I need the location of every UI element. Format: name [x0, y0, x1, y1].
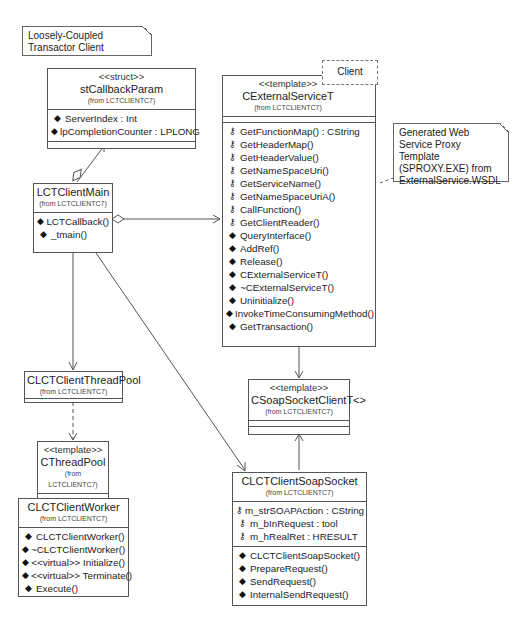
- operation-row: ⚷GetNameSpaceUri(): [226, 164, 372, 177]
- protected-key-icon: ⚷: [226, 138, 238, 151]
- public-diamond-icon: ◆: [51, 125, 58, 138]
- class-stereotype: <<template>>: [40, 444, 106, 456]
- operations-compartment: [48, 141, 195, 146]
- attributes-compartment: ◆ServerIndex : Int ◆lpCompletionCounter …: [48, 109, 195, 141]
- protected-key-icon: ⚷: [226, 216, 238, 229]
- class-name: CLCTClientThreadPool: [27, 374, 120, 386]
- public-diamond-icon: ◆: [236, 588, 248, 601]
- operation-row: ◆InternalSendRequest(): [236, 588, 363, 601]
- public-diamond-icon: ◆: [22, 530, 34, 543]
- public-diamond-icon: ◆: [22, 569, 29, 582]
- public-diamond-icon: ◆: [22, 543, 29, 556]
- class-package: (from LCTCLIENTC7): [21, 513, 126, 524]
- class-stereotype: <<template>>: [251, 382, 347, 394]
- public-diamond-icon: ◆: [37, 215, 44, 228]
- class-package: (from LCTCLIENTC7): [40, 468, 106, 490]
- operation-row: ◆<<virtual>> Initialize(): [22, 556, 125, 569]
- operations-compartment: ◆CLCTClientSoapSocket() ◆PrepareRequest(…: [233, 546, 366, 604]
- public-diamond-icon: ◆: [226, 229, 238, 242]
- operation-row: ◆SendRequest(): [236, 575, 363, 588]
- public-diamond-icon: ◆: [236, 549, 248, 562]
- operation-row: ◆Execute(): [22, 582, 125, 595]
- class-csoapsocketclientt[interactable]: <<template>> CSoapSocketClientT<> (from …: [248, 379, 350, 435]
- operation-row: ◆Release(): [226, 255, 372, 268]
- class-package: (from LCTCLIENTC7): [251, 406, 347, 417]
- protected-key-icon: ⚷: [226, 203, 238, 216]
- note-proxy: Generated Web Service Proxy Template (SP…: [393, 123, 509, 182]
- public-diamond-icon: ◆: [22, 582, 34, 595]
- public-diamond-icon: ◆: [37, 228, 49, 241]
- operation-row: ◆QueryInterface(): [226, 229, 372, 242]
- operation-row: ◆~CLCTClientWorker(): [22, 543, 125, 556]
- class-name: CSoapSocketClientT<>: [251, 394, 347, 406]
- operation-row: ⚷GetHeaderMap(): [226, 138, 372, 151]
- class-stcallbackparam[interactable]: <<struct>> stCallbackParam (from LCTCLIE…: [47, 68, 196, 149]
- attributes-compartment: ⚷m_strSOAPAction : CString ⚷m_bInRequest…: [233, 501, 366, 546]
- class-name: stCallbackParam: [50, 83, 193, 95]
- public-diamond-icon: ◆: [226, 281, 238, 294]
- protected-key-icon: ⚷: [236, 504, 243, 517]
- note-text: Generated Web Service Proxy Template (SP…: [399, 127, 501, 186]
- class-package: (from LCTCLIENTC7): [36, 198, 110, 209]
- class-name: CThreadPool: [40, 456, 106, 468]
- note-fold-icon: [500, 123, 509, 132]
- operation-row: ◆CLCTClientSoapSocket(): [236, 549, 363, 562]
- class-cexternalservicet[interactable]: <<template>> CExternalServiceT (from LCT…: [222, 75, 376, 347]
- public-diamond-icon: ◆: [22, 556, 29, 569]
- note-fold-icon: [143, 26, 152, 35]
- class-name: CExternalServiceT: [225, 90, 351, 102]
- class-package: (from LCTCLIENTC7): [27, 386, 120, 397]
- attribute-row: ⚷m_strSOAPAction : CString: [236, 504, 363, 517]
- public-diamond-icon: ◆: [236, 575, 248, 588]
- operation-row: ⚷GetNameSpaceUriA(): [226, 190, 372, 203]
- protected-key-icon: ⚷: [236, 517, 248, 530]
- protected-key-icon: ⚷: [226, 190, 238, 203]
- operations-compartment: ⚷GetFunctionMap() : CString ⚷GetHeaderMa…: [223, 122, 375, 336]
- attribute-row: ◆lpCompletionCounter : LPLONG: [51, 125, 192, 138]
- class-package: (from LCTCLIENTC7): [225, 102, 351, 113]
- public-diamond-icon: ◆: [226, 307, 233, 320]
- public-diamond-icon: ◆: [226, 268, 238, 281]
- class-stereotype: <<struct>>: [50, 71, 193, 83]
- operation-row: ◆CExternalServiceT(): [226, 268, 372, 281]
- operations-compartment: ◆CLCTClientWorker() ◆~CLCTClientWorker()…: [19, 527, 128, 598]
- operation-row: ⚷GetClientReader(): [226, 216, 372, 229]
- class-clctclientworker[interactable]: CLCTClientWorker (from LCTCLIENTC7) ◆CLC…: [18, 498, 129, 597]
- note-title: Loosely-Coupled Transactor Client: [22, 26, 152, 56]
- attribute-row: ◆ServerIndex : Int: [51, 112, 192, 125]
- class-name: CLCTClientSoapSocket: [235, 475, 364, 487]
- class-name: CLCTClientWorker: [21, 501, 126, 513]
- operation-row: ⚷GetHeaderValue(): [226, 151, 372, 164]
- attribute-row: ⚷m_bInRequest : tool: [236, 517, 363, 530]
- operation-row: ◆<<virtual>> Terminate(): [22, 569, 125, 582]
- protected-key-icon: ⚷: [226, 177, 238, 190]
- protected-key-icon: ⚷: [236, 530, 248, 543]
- note-text: Loosely-Coupled Transactor Client: [28, 30, 104, 53]
- operation-row: ◆GetTransaction(): [226, 320, 372, 333]
- operation-row: ◆InvokeTimeConsumingMethod(): [226, 307, 372, 320]
- operation-row: ◆PrepareRequest(): [236, 562, 363, 575]
- operation-row: ◆Uninitialize(): [226, 294, 372, 307]
- operation-row: ⚷CallFunction(): [226, 203, 372, 216]
- public-diamond-icon: ◆: [226, 242, 238, 255]
- class-clctclientthreadpool[interactable]: CLCTClientThreadPool (from LCTCLIENTC7): [24, 371, 123, 403]
- attribute-row: ⚷m_hRealRet : HRESULT: [236, 530, 363, 543]
- protected-key-icon: ⚷: [226, 151, 238, 164]
- relation-main-struct: [77, 146, 104, 182]
- note-anchor-line: [380, 178, 393, 183]
- protected-key-icon: ⚷: [226, 125, 238, 138]
- operation-row: ◆AddRef(): [226, 242, 372, 255]
- class-name: LCTClientMain: [36, 186, 110, 198]
- operations-compartment: ◆LCTCallback() ◆_tmain(): [34, 212, 112, 244]
- operation-row: ◆LCTCallback(): [37, 215, 109, 228]
- class-clctclientsoapsocket[interactable]: CLCTClientSoapSocket (from LCTCLIENTC7) …: [232, 472, 367, 606]
- class-lctclientmain[interactable]: LCTClientMain (from LCTCLIENTC7) ◆LCTCal…: [33, 183, 113, 253]
- protected-key-icon: ⚷: [226, 164, 238, 177]
- template-parameter-client: Client: [322, 60, 378, 85]
- operation-row: ◆~CExternalServiceT(): [226, 281, 372, 294]
- attributes-compartment: [25, 398, 122, 401]
- public-diamond-icon: ◆: [236, 562, 248, 575]
- operation-row: ◆CLCTClientWorker(): [22, 530, 125, 543]
- public-diamond-icon: ◆: [226, 255, 238, 268]
- public-diamond-icon: ◆: [226, 294, 238, 307]
